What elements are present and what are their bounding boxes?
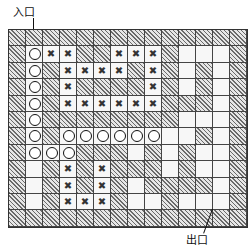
wall-cell xyxy=(196,96,213,112)
wall-cell xyxy=(128,161,145,177)
open-cell xyxy=(196,46,213,62)
path-circle-cell xyxy=(26,63,43,79)
open-cell xyxy=(213,63,230,79)
wall-cell xyxy=(196,30,213,46)
wall-cell xyxy=(162,79,179,95)
wall-cell xyxy=(43,128,60,144)
wall-cell xyxy=(9,46,26,62)
cross-cell xyxy=(94,194,111,210)
wall-cell xyxy=(196,128,213,144)
wall-cell xyxy=(179,96,196,112)
wall-cell xyxy=(111,161,128,177)
cross-cell xyxy=(128,46,145,62)
open-cell xyxy=(196,112,213,128)
wall-cell xyxy=(179,30,196,46)
wall-cell xyxy=(94,46,111,62)
cross-cell xyxy=(145,96,162,112)
exit-label: 出口 xyxy=(186,231,208,245)
path-circle-cell xyxy=(26,96,43,112)
wall-cell xyxy=(230,145,247,161)
open-cell xyxy=(128,178,145,194)
entry-label: 入口 xyxy=(13,3,35,19)
cross-cell xyxy=(111,46,128,62)
cross-cell xyxy=(94,161,111,177)
wall-cell xyxy=(213,30,230,46)
open-cell xyxy=(26,161,43,177)
wall-cell xyxy=(43,63,60,79)
open-cell xyxy=(162,161,179,177)
cross-cell xyxy=(43,46,60,62)
wall-cell xyxy=(230,46,247,62)
wall-cell xyxy=(179,178,196,194)
wall-cell xyxy=(94,210,111,226)
wall-cell xyxy=(77,46,94,62)
wall-cell xyxy=(128,63,145,79)
cross-cell xyxy=(94,63,111,79)
path-circle-cell xyxy=(145,128,162,144)
wall-cell xyxy=(77,112,94,128)
path-circle-cell xyxy=(26,46,43,62)
open-cell xyxy=(196,145,213,161)
open-cell xyxy=(179,112,196,128)
wall-cell xyxy=(128,79,145,95)
wall-cell xyxy=(9,96,26,112)
open-cell xyxy=(196,161,213,177)
wall-cell xyxy=(77,79,94,95)
wall-cell xyxy=(179,145,196,161)
open-cell xyxy=(213,145,230,161)
wall-cell xyxy=(196,79,213,95)
wall-cell xyxy=(9,194,26,210)
wall-cell xyxy=(94,112,111,128)
open-cell xyxy=(213,46,230,62)
wall-cell xyxy=(9,63,26,79)
wall-cell xyxy=(94,79,111,95)
wall-cell xyxy=(145,112,162,128)
cross-cell xyxy=(60,194,77,210)
open-cell xyxy=(179,128,196,144)
open-cell xyxy=(162,145,179,161)
wall-cell xyxy=(162,178,179,194)
path-circle-cell xyxy=(26,145,43,161)
wall-cell xyxy=(9,79,26,95)
cross-cell xyxy=(60,63,77,79)
path-circle-cell xyxy=(94,128,111,144)
cross-cell xyxy=(111,63,128,79)
open-cell xyxy=(26,194,43,210)
cross-cell xyxy=(77,96,94,112)
wall-cell xyxy=(162,210,179,226)
open-cell xyxy=(179,79,196,95)
wall-cell xyxy=(9,30,26,46)
wall-cell xyxy=(77,161,94,177)
open-cell xyxy=(213,79,230,95)
wall-cell xyxy=(230,194,247,210)
wall-cell xyxy=(179,210,196,226)
wall-cell xyxy=(230,178,247,194)
open-cell xyxy=(26,178,43,194)
cross-cell xyxy=(94,96,111,112)
cross-cell xyxy=(60,178,77,194)
wall-cell xyxy=(43,30,60,46)
wall-cell xyxy=(111,178,128,194)
open-cell xyxy=(213,96,230,112)
cross-cell xyxy=(111,96,128,112)
path-circle-cell xyxy=(26,79,43,95)
open-cell xyxy=(128,145,145,161)
wall-cell xyxy=(43,79,60,95)
wall-cell xyxy=(60,210,77,226)
wall-cell xyxy=(94,145,111,161)
cross-cell xyxy=(60,96,77,112)
wall-cell xyxy=(111,210,128,226)
wall-cell xyxy=(9,161,26,177)
open-cell xyxy=(162,128,179,144)
wall-cell xyxy=(9,210,26,226)
path-circle-cell xyxy=(77,128,94,144)
wall-cell xyxy=(94,30,111,46)
wall-cell xyxy=(196,63,213,79)
wall-cell xyxy=(145,210,162,226)
wall-cell xyxy=(9,178,26,194)
wall-cell xyxy=(60,30,77,46)
open-cell xyxy=(213,128,230,144)
wall-cell xyxy=(77,145,94,161)
wall-cell xyxy=(111,30,128,46)
wall-cell xyxy=(230,96,247,112)
